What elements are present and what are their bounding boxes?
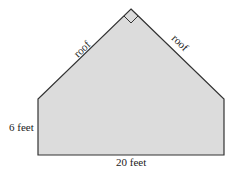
- house-shape: [38, 9, 224, 155]
- wall-height-label: 6 feet: [9, 121, 34, 133]
- house-diagram: roof roof 6 feet 20 feet: [0, 0, 232, 170]
- base-width-label: 20 feet: [116, 156, 146, 168]
